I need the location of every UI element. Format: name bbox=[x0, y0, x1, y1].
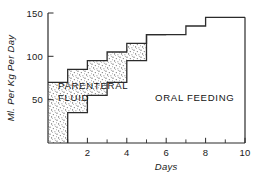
y-axis-title: Ml. Per Kg Per Day bbox=[5, 34, 16, 122]
x-tick-label-8: 8 bbox=[203, 147, 208, 158]
chart-figure: 150 100 50 2 4 6 8 10 Days Ml. Per Kg Pe… bbox=[0, 0, 261, 180]
region-label-oral-feeding: ORAL FEEDING bbox=[155, 92, 234, 103]
y-tick-label-50: 50 bbox=[32, 94, 43, 105]
x-tick-label-4: 4 bbox=[124, 147, 129, 158]
x-axis-title: Days bbox=[155, 161, 178, 172]
chart-background bbox=[0, 0, 261, 180]
region-label-parenteral-fluid-line1: PARENTERAL bbox=[58, 80, 128, 91]
x-tick-label-2: 2 bbox=[85, 147, 90, 158]
x-tick-label-10: 10 bbox=[240, 147, 251, 158]
chart-canvas: 150 100 50 2 4 6 8 10 Days Ml. Per Kg Pe… bbox=[0, 0, 261, 180]
y-tick-label-150: 150 bbox=[27, 8, 43, 19]
x-tick-label-6: 6 bbox=[163, 147, 168, 158]
y-tick-label-100: 100 bbox=[27, 51, 43, 62]
region-label-parenteral-fluid-line2: FLUID bbox=[58, 92, 89, 103]
